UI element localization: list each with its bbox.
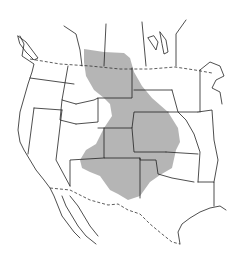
species-range-area (80, 49, 180, 200)
pacific-coastline (18, 36, 80, 238)
us-mexico-border (50, 188, 180, 244)
range-map (0, 0, 244, 261)
vancouver-island (18, 36, 38, 60)
baja-peninsula (62, 196, 98, 244)
gulf-coastline (178, 206, 226, 244)
